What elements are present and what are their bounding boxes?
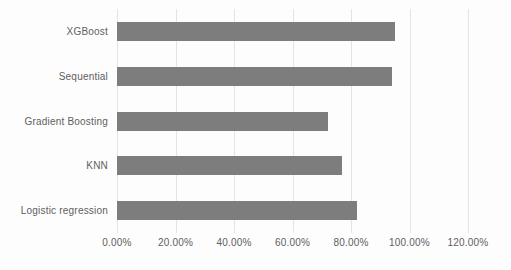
gridline-100	[410, 9, 411, 233]
gridline-120	[468, 9, 469, 233]
bar-xgboost	[117, 22, 395, 41]
x-tick-label-40: 40.00%	[202, 237, 266, 248]
gridline-80	[351, 9, 352, 233]
category-label-knn: KNN	[0, 156, 108, 175]
plot-area	[117, 9, 468, 233]
category-label-logistic-regression: Logistic regression	[0, 201, 108, 220]
x-tick-label-100: 100.00%	[378, 237, 442, 248]
bar-knn	[117, 156, 342, 175]
category-label-gradient-boosting: Gradient Boosting	[0, 112, 108, 131]
x-tick-label-60: 60.00%	[261, 237, 325, 248]
x-tick-label-120: 120.00%	[436, 237, 500, 248]
x-tick-label-80: 80.00%	[319, 237, 383, 248]
x-tick-label-20: 20.00%	[144, 237, 208, 248]
bar-chart: XGBoostSequentialGradient BoostingKNNLog…	[0, 0, 511, 270]
bar-logistic-regression	[117, 201, 357, 220]
category-label-sequential: Sequential	[0, 67, 108, 86]
x-tick-label-0: 0.00%	[85, 237, 149, 248]
category-label-xgboost: XGBoost	[0, 22, 108, 41]
bar-gradient-boosting	[117, 112, 328, 131]
bar-sequential	[117, 67, 392, 86]
